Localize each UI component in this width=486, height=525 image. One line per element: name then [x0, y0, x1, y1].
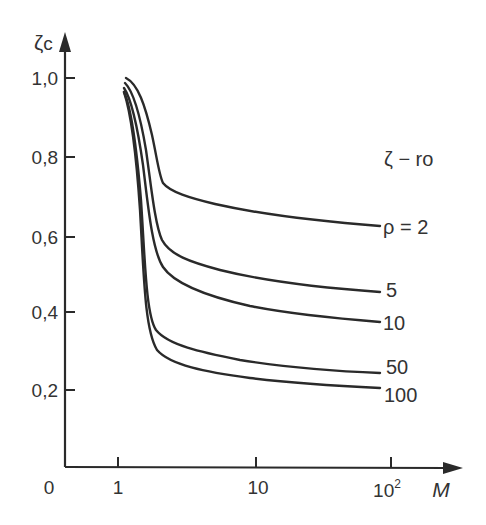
y-tick-label: 0,2	[32, 380, 58, 401]
y-tick-label: 0,8	[32, 147, 58, 168]
curve-rho-50	[124, 92, 380, 373]
x-ticks	[118, 457, 391, 467]
x-origin-label: 0	[44, 477, 55, 498]
x-tick-label: 10	[247, 477, 268, 498]
curve-label-rho-10: 10	[383, 312, 405, 334]
y-tick-label: 0,6	[32, 227, 58, 248]
y-axis-label-main: ζ	[34, 31, 43, 54]
curve-label-rho-100: 100	[384, 384, 417, 406]
curve-label-rho-2: ρ = 2	[383, 216, 428, 238]
x-tick-label-base: 10	[373, 480, 394, 501]
x-tick-label: 1	[113, 477, 124, 498]
chart-canvas: 1,0 0,8 0,6 0,4 0,2 ζc 0 1 10 102 M ζ − …	[0, 0, 486, 525]
curve-rho-2	[126, 78, 380, 226]
curve-label-rho-50: 50	[386, 356, 408, 378]
curve-rho-5	[125, 83, 380, 292]
x-axis-label: M	[432, 478, 450, 501]
curve-rho-10	[124, 88, 380, 322]
legend-title: ζ − ro	[384, 148, 433, 170]
y-ticks	[65, 78, 75, 390]
x-axis-line	[65, 467, 448, 468]
curves	[124, 78, 380, 388]
y-axis-label-sub: c	[43, 33, 53, 54]
y-tick-label: 0,4	[32, 302, 59, 323]
x-axis-arrow-icon	[443, 462, 463, 474]
y-axis-arrow-icon	[59, 32, 71, 52]
x-tick-label: 102	[373, 477, 401, 501]
x-tick-label-exp: 2	[394, 477, 401, 491]
y-tick-label: 1,0	[32, 68, 58, 89]
curve-label-rho-5: 5	[386, 279, 397, 301]
y-axis-label: ζc	[34, 31, 53, 54]
